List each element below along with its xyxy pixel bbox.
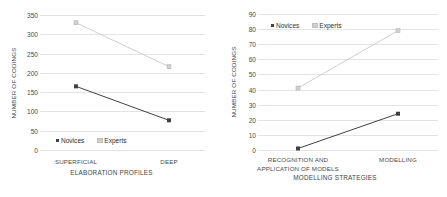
y-axis-tick-label: 50 <box>31 127 38 134</box>
data-point-marker-experts <box>296 86 300 90</box>
series-line-novices <box>298 114 398 149</box>
y-axis-tick-label: 30 <box>249 101 256 108</box>
y-axis-tick-label: 100 <box>27 108 38 115</box>
legend-entry-novices: Novices <box>56 137 84 144</box>
data-point-marker-novices <box>396 112 400 116</box>
legend-label-experts: Experts <box>104 137 126 144</box>
data-point-marker-novices <box>296 146 300 150</box>
chart-legend: Novices Experts <box>56 137 127 144</box>
y-axis-tick-label: 0 <box>252 147 256 154</box>
gridline <box>40 150 205 151</box>
chart-panel-elaboration-profiles: NUMBER OF CODINGS 050100150200250300350 … <box>0 0 223 197</box>
y-axis-title: NUMBER OF CODINGS <box>10 47 17 118</box>
x-axis-title: MODELLING STRATEGIES <box>223 174 447 181</box>
x-axis-tick-label: DEEP <box>160 158 177 167</box>
legend-label-experts: Experts <box>319 22 341 29</box>
y-axis-tick-label: 50 <box>249 71 256 78</box>
gridline <box>258 150 438 151</box>
legend-swatch-novices-icon <box>56 139 59 142</box>
x-axis-tick-label: MODELLING <box>379 156 417 165</box>
two-panel-line-chart-figure: NUMBER OF CODINGS 050100150200250300350 … <box>0 0 447 197</box>
legend-label-novices: Novices <box>276 22 299 29</box>
series-line-novices <box>76 86 169 120</box>
data-series-layer <box>40 15 205 150</box>
y-axis-tick-label: 300 <box>27 31 38 38</box>
y-axis-tick-label: 60 <box>249 56 256 63</box>
y-axis-tick-label: 250 <box>27 50 38 57</box>
y-axis-tick-label: 350 <box>27 12 38 19</box>
legend-swatch-novices-icon <box>271 24 274 27</box>
y-axis-tick-label: 150 <box>27 89 38 96</box>
chart-panel-modelling-strategies: NUMBER OF CODINGS 0102030405060708090 RE… <box>223 0 447 197</box>
data-point-marker-experts <box>74 21 78 25</box>
y-axis-tick-label: 10 <box>249 131 256 138</box>
y-axis-tick-label: 200 <box>27 69 38 76</box>
legend-swatch-experts-icon <box>312 23 317 28</box>
x-axis-title: ELABORATION PROFILES <box>0 169 223 176</box>
plot-area <box>40 15 205 150</box>
legend-entry-experts: Experts <box>97 137 126 144</box>
y-axis-tick-label: 70 <box>249 41 256 48</box>
y-axis-tick-labels: 0102030405060708090 <box>236 14 256 150</box>
x-axis-tick-label: SUPERFICIAL <box>55 158 97 167</box>
y-axis-tick-labels: 050100150200250300350 <box>18 15 38 150</box>
y-axis-tick-label: 0 <box>34 147 38 154</box>
data-point-marker-novices <box>74 84 78 88</box>
data-point-marker-experts <box>167 65 171 69</box>
data-point-marker-novices <box>167 118 171 122</box>
x-axis-tick-label: RECOGNITION ANDAPPLICATION OF MODELS <box>257 156 339 173</box>
legend-entry-novices: Novices <box>271 22 299 29</box>
series-line-experts <box>298 31 398 88</box>
y-axis-tick-label: 20 <box>249 116 256 123</box>
y-axis-tick-label: 90 <box>249 11 256 18</box>
series-line-experts <box>76 23 169 67</box>
chart-legend: Novices Experts <box>271 22 342 29</box>
plot-area <box>258 14 438 150</box>
legend-entry-experts: Experts <box>312 22 341 29</box>
legend-label-novices: Novices <box>61 137 84 144</box>
data-point-marker-experts <box>396 29 400 33</box>
y-axis-tick-label: 40 <box>249 86 256 93</box>
y-axis-tick-label: 80 <box>249 26 256 33</box>
data-series-layer <box>258 14 438 150</box>
legend-swatch-experts-icon <box>97 138 102 143</box>
